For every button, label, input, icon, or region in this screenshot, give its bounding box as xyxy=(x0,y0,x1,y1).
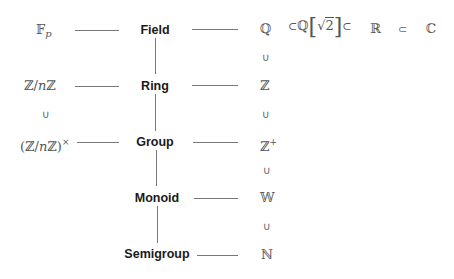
connector-field-rationals xyxy=(192,29,238,30)
unit-group-label: (ℤ/nℤ)× xyxy=(20,135,69,154)
integers-symbol: ℤ xyxy=(260,79,270,93)
semigroup-node: Semigroup xyxy=(124,247,189,261)
finite-field-label: 𝔽p xyxy=(36,23,52,41)
connector-units-group xyxy=(77,142,119,143)
connector-group-positive-integers xyxy=(193,142,238,143)
connector-zn-ring xyxy=(75,86,119,87)
connector-field-ring xyxy=(155,38,156,74)
rationals-symbol: ℚ xyxy=(260,22,271,36)
n-variable: n xyxy=(38,78,46,93)
positive-integers-symbol: ℤ xyxy=(260,139,270,154)
naturals-symbol: ℕ xyxy=(261,248,273,262)
sqrt-two: √2 xyxy=(317,17,334,33)
rationals-symbol: ℚ xyxy=(297,18,308,33)
subset-symbol-reals-complex: ⊂ xyxy=(398,23,407,36)
connector-group-monoid xyxy=(156,150,157,186)
connector-ring-group xyxy=(155,94,156,131)
group-node: Group xyxy=(136,135,174,149)
integers-symbol: ℤ xyxy=(47,139,57,154)
field-extension-chain: ⊂ℚ[√2]⊂ xyxy=(288,14,352,39)
connector-monoid-wholes xyxy=(194,198,238,199)
subset-symbol-integers-positive: ∪ xyxy=(262,109,270,121)
finite-field-subscript: p xyxy=(45,28,51,39)
complex-symbol: ℂ xyxy=(426,22,436,36)
left-bracket: [ xyxy=(309,14,318,39)
field-node: Field xyxy=(140,23,169,37)
integers-mod-n-label: ℤ/nℤ xyxy=(24,79,56,93)
units-superscript: × xyxy=(62,137,70,147)
connector-semigroup-naturals xyxy=(197,255,238,256)
integers-symbol: ℤ xyxy=(46,78,56,93)
subset-symbol: ⊂ xyxy=(288,20,297,33)
integers-symbol: ℤ xyxy=(25,139,35,154)
connector-finite-field-field xyxy=(75,30,119,31)
positive-integers-label: ℤ+ xyxy=(260,135,277,154)
connector-ring-integers xyxy=(192,85,238,86)
subset-symbol-positive-wholes: ∪ xyxy=(263,165,271,177)
ring-node: Ring xyxy=(141,79,169,93)
monoid-node: Monoid xyxy=(135,191,179,205)
finite-field-symbol: 𝔽 xyxy=(36,22,45,37)
subset-symbol-wholes-naturals: ∪ xyxy=(263,221,271,233)
subset-symbol-left: ∪ xyxy=(42,109,50,121)
wholes-symbol: 𝕎 xyxy=(260,191,275,205)
sqrt-argument: 2 xyxy=(325,17,333,33)
integers-symbol: ℤ xyxy=(24,78,34,93)
subset-symbol: ⊂ xyxy=(342,20,351,33)
reals-symbol: ℝ xyxy=(370,22,381,36)
subset-symbol-rationals-integers: ∪ xyxy=(262,52,270,64)
plus-superscript: + xyxy=(270,137,278,147)
connector-monoid-semigroup xyxy=(157,206,158,243)
